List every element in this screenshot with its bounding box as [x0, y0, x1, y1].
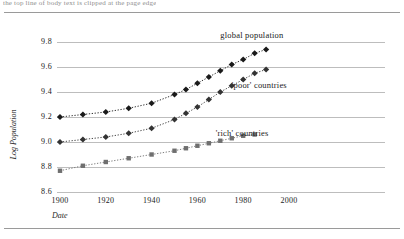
- data-point-diamond: [194, 80, 200, 86]
- data-point-diamond: [263, 66, 269, 72]
- data-point-diamond: [103, 109, 109, 115]
- data-point-square: [149, 152, 153, 156]
- data-point-square: [81, 164, 85, 168]
- chart-data-layer: [0, 0, 404, 239]
- data-point-square: [127, 156, 131, 160]
- data-point-diamond: [149, 100, 155, 106]
- data-point-diamond: [103, 134, 109, 140]
- series-square: [58, 132, 257, 173]
- data-point-diamond: [217, 68, 223, 74]
- y-axis-title: Log Population: [9, 100, 18, 170]
- data-point-diamond: [183, 110, 189, 116]
- data-point-diamond: [57, 139, 63, 145]
- data-point-square: [218, 139, 222, 143]
- data-point-diamond: [126, 105, 132, 111]
- data-point-diamond: [252, 70, 258, 76]
- series-label: 'poor' countries: [232, 80, 287, 90]
- data-point-diamond: [171, 116, 177, 122]
- data-point-diamond: [263, 46, 269, 52]
- figure-page: the top line of body text is clipped at …: [0, 0, 404, 239]
- data-point-diamond: [171, 91, 177, 97]
- data-point-diamond: [206, 96, 212, 102]
- series-label: 'rich' countries: [216, 128, 269, 138]
- data-point-square: [58, 169, 62, 173]
- data-point-diamond: [183, 86, 189, 92]
- data-point-diamond: [240, 56, 246, 62]
- data-point-diamond: [194, 104, 200, 110]
- data-point-square: [172, 149, 176, 153]
- data-point-square: [195, 144, 199, 148]
- data-point-diamond: [80, 111, 86, 117]
- data-point-square: [104, 160, 108, 164]
- data-point-diamond: [80, 136, 86, 142]
- series-line: [60, 135, 255, 171]
- data-point-square: [184, 146, 188, 150]
- data-point-diamond: [229, 61, 235, 67]
- data-point-diamond: [126, 130, 132, 136]
- data-point-diamond: [57, 114, 63, 120]
- data-point-diamond: [206, 74, 212, 80]
- series-label: global population: [220, 30, 283, 40]
- data-point-square: [207, 141, 211, 145]
- x-axis-title: Date: [52, 211, 68, 220]
- chart-plot-area: 9.89.69.49.29.08.88.6 190019201940196019…: [0, 0, 404, 239]
- data-point-diamond: [217, 89, 223, 95]
- data-point-diamond: [149, 125, 155, 131]
- data-point-diamond: [252, 50, 258, 56]
